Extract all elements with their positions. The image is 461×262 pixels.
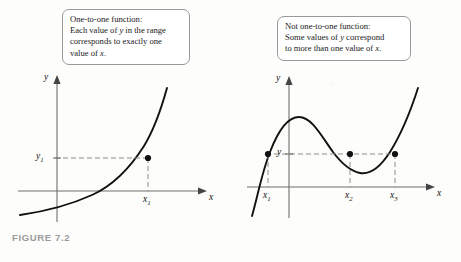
right-x2-label: x2 (345, 190, 353, 202)
left-x1-label-sub: 1 (147, 199, 150, 206)
right-y-level-label: y (277, 147, 281, 157)
right-intersection-point-1 (265, 151, 271, 157)
right-x-axis-label: x (437, 188, 441, 198)
callout-not-one-to-one: Not one-to-one function: Some values of … (277, 16, 411, 61)
callout-left-line1: One-to-one function: (70, 14, 182, 25)
callout-left-line4: value of x. (70, 48, 182, 59)
right-intersection-point-2 (347, 151, 353, 157)
right-x3-label-sub: 3 (394, 195, 397, 202)
callout-left-line2-a: Each value of (70, 25, 119, 35)
right-x3-label: x3 (390, 190, 398, 202)
callout-right-line3-b: . (379, 43, 381, 53)
callout-left-line2-b: in the range (123, 25, 166, 35)
callout-right-line2-a: Some values of (285, 32, 340, 42)
callout-left-line4-b: . (104, 48, 106, 58)
callout-right-line1: Not one-to-one function: (285, 21, 403, 32)
figure-caption: FIGURE 7.2 (12, 232, 70, 243)
left-y1-label: y1 (36, 151, 44, 163)
left-x1-label: x1 (143, 194, 151, 206)
callout-left-line2: Each value of y in the range (70, 25, 182, 36)
right-x2-label-sub: 2 (349, 195, 352, 202)
right-x-axis-arrow (426, 183, 435, 190)
left-y1-label-sub: 1 (40, 156, 43, 163)
callout-right-line3-a: to more than one value of (285, 43, 375, 53)
right-y-axis-arrow (285, 76, 292, 85)
figure-container: One-to-one function: Each value of y in … (0, 0, 461, 262)
callout-right-line2-b: correspond (344, 32, 384, 42)
callout-left-line3: corresponds to exactly one (70, 36, 182, 47)
right-x1-label: x1 (263, 190, 271, 202)
left-x-axis-label: x (209, 192, 213, 202)
callout-left-line4-a: value of (70, 48, 100, 58)
callout-right-line3: to more than one value of x. (285, 43, 403, 54)
right-intersection-point-3 (392, 151, 398, 157)
right-x1-label-sub: 1 (267, 195, 270, 202)
right-y-axis-label: y (276, 73, 280, 83)
left-y-axis-label: y (44, 72, 48, 82)
callout-right-line2: Some values of y correspond (285, 32, 403, 43)
callout-one-to-one: One-to-one function: Each value of y in … (62, 9, 190, 65)
